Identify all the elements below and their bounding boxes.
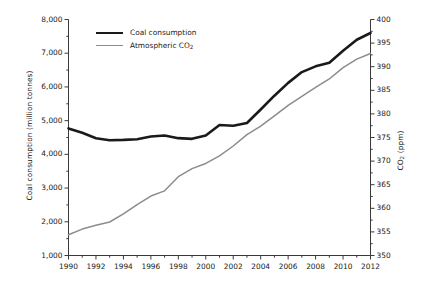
- y-axis-right-tick-label: 350: [377, 251, 411, 260]
- y-axis-right-tick-label: 375: [377, 133, 411, 142]
- y-axis-right-tick-label: 385: [377, 85, 411, 94]
- y-axis-right-tick-label: 380: [377, 109, 411, 118]
- y-axis-right-tick-label: 400: [377, 15, 411, 24]
- series-line-atmospheric-co2: [69, 53, 371, 234]
- plot-area: [0, 0, 423, 290]
- y-axis-left-tick-label: 2,000: [29, 217, 63, 226]
- y-axis-left-tick-label: 6,000: [29, 82, 63, 91]
- y-axis-right-tick-label: 355: [377, 227, 411, 236]
- y-axis-left-tick-label: 5,000: [29, 116, 63, 125]
- y-axis-left-tick-label: 1,000: [29, 251, 63, 260]
- y-axis-right-tick-label: 390: [377, 62, 411, 71]
- y-axis-right-tick-label: 365: [377, 180, 411, 189]
- x-axis-tick-label: 2012: [354, 262, 388, 271]
- y-axis-right-tick-label: 370: [377, 156, 411, 165]
- y-axis-left-tick-label: 4,000: [29, 149, 63, 158]
- y-axis-left-tick-label: 8,000: [29, 15, 63, 24]
- series-line-coal-consumption: [69, 33, 371, 140]
- y-axis-left-tick-label: 7,000: [29, 48, 63, 57]
- y-axis-left-tick-label: 3,000: [29, 183, 63, 192]
- y-axis-right-tick-label: 360: [377, 203, 411, 212]
- chart-container: Coal consumption (million tonnes) CO2 (p…: [0, 0, 423, 290]
- y-axis-right-tick-label: 395: [377, 38, 411, 47]
